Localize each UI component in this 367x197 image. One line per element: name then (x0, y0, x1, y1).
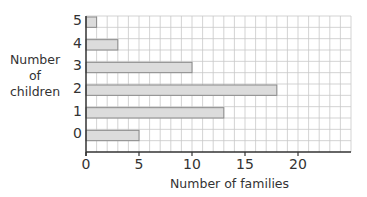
x-tick-label: 10 (183, 156, 201, 172)
y-axis-label: Number of children (4, 52, 66, 100)
y-axis-label-line: children (4, 84, 66, 100)
y-tick-label: 5 (68, 12, 82, 28)
bar-1 (86, 108, 224, 118)
y-axis-label-line: of (4, 68, 66, 84)
y-tick-label: 1 (68, 103, 82, 119)
y-tick-label: 2 (68, 80, 82, 96)
x-tick-label: 5 (135, 156, 144, 172)
bar-3 (86, 62, 192, 72)
x-tick-label: 20 (289, 156, 307, 172)
x-axis-label: Number of families (170, 176, 289, 191)
x-tick-label: 0 (82, 156, 91, 172)
y-tick-label: 3 (68, 57, 82, 73)
bar-0 (86, 130, 139, 140)
bar-4 (86, 40, 118, 50)
y-tick-label: 0 (68, 125, 82, 141)
bar-5 (86, 17, 97, 27)
y-tick-label: 4 (68, 35, 82, 51)
y-axis-label-line: Number (4, 52, 66, 68)
x-tick-label: 15 (236, 156, 254, 172)
bar-2 (86, 85, 277, 95)
